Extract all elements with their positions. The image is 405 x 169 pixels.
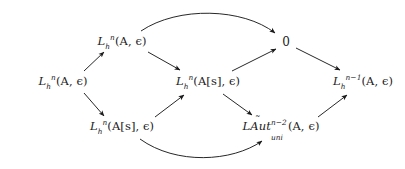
node-L-bottom-left-subscript: h — [98, 127, 103, 136]
edge-bottom-left-to-laut — [140, 139, 262, 158]
edge-center-to-zero — [232, 49, 276, 71]
node-L-center-subscript: h — [184, 82, 189, 91]
edge-left-to-bottom-left — [84, 93, 104, 116]
node-L-left-symbol: L — [38, 74, 46, 88]
node-LAut-L-symbol: L — [242, 119, 250, 133]
node-LAut-aut-symbol: Aut — [250, 119, 271, 133]
edge-top-left-to-zero — [141, 13, 275, 33]
node-L-top-left-arguments: (A, ϵ) — [115, 34, 147, 48]
node-L-top-left: Lhn(A, ϵ) — [97, 36, 146, 48]
node-zero: 0 — [282, 36, 290, 48]
node-L-center: Lhn(A[s], ϵ) — [176, 76, 240, 88]
node-L-right-symbol: L — [333, 74, 341, 88]
node-L-center-arguments: (A[s], ϵ) — [193, 74, 240, 88]
node-L-bottom-left-symbol: L — [90, 119, 98, 133]
node-L-left-arguments: (A, ϵ) — [56, 74, 88, 88]
node-LAut-superscript: n−2 — [271, 120, 287, 127]
node-L-bottom-left-arguments: (A[s], ϵ) — [107, 119, 154, 133]
edge-left-to-top-left — [84, 52, 104, 71]
edge-top-left-to-center — [148, 52, 180, 70]
edge-bottom-left-to-center — [155, 95, 184, 117]
node-LAut-arguments: (A, ϵ) — [288, 119, 320, 133]
edge-laut-to-right — [318, 95, 347, 117]
node-L-left-subscript: h — [46, 82, 51, 91]
node-L-top-left-symbol: L — [97, 34, 105, 48]
node-L-left: Lhn(A, ϵ) — [38, 76, 87, 88]
edge-zero-to-right — [296, 48, 340, 70]
node-LAut-uni: L̃Autn−2uni (A, ϵ) — [242, 121, 319, 133]
node-L-right-superscript: n−1 — [346, 73, 362, 82]
edge-center-to-laut — [223, 94, 252, 115]
node-L-right: Lhn−1(A, ϵ) — [333, 76, 393, 88]
node-LAut-accented-group: ̃Aut — [250, 121, 271, 133]
commutative-diagram: Lhn(A, ϵ) Lhn(A, ϵ) Lhn(A[s], ϵ) Lhn(A[s… — [0, 0, 405, 169]
node-L-right-arguments: (A, ϵ) — [361, 74, 393, 88]
node-L-top-left-subscript: h — [105, 42, 110, 51]
node-L-bottom-left: Lhn(A[s], ϵ) — [90, 121, 154, 133]
node-LAut-subscript: uni — [271, 134, 283, 141]
node-L-right-subscript: h — [341, 82, 346, 91]
node-L-center-symbol: L — [176, 74, 184, 88]
